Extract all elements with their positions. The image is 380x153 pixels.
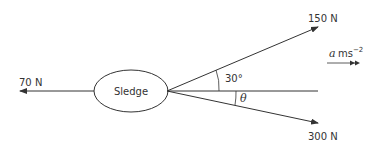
- angle-theta-label: θ: [240, 92, 247, 105]
- force-70n-label: 70 N: [19, 77, 42, 88]
- sledge-label: Sledge: [114, 86, 148, 97]
- force-300n-label: 300 N: [308, 131, 338, 142]
- acceleration-unit: ms: [338, 48, 353, 59]
- force-diagram: 70 N Sledge 150 N 300 N 30° θ a ms −2: [0, 0, 380, 153]
- acceleration-symbol: a: [329, 47, 336, 60]
- acceleration-exponent: −2: [353, 46, 363, 54]
- acceleration-double-arrowhead-icon: [350, 61, 360, 66]
- force-150n-label: 150 N: [308, 13, 338, 24]
- angle-30-arc: [216, 70, 219, 91]
- angle-theta-arc: [235, 91, 236, 105]
- angle-30-label: 30°: [225, 73, 243, 84]
